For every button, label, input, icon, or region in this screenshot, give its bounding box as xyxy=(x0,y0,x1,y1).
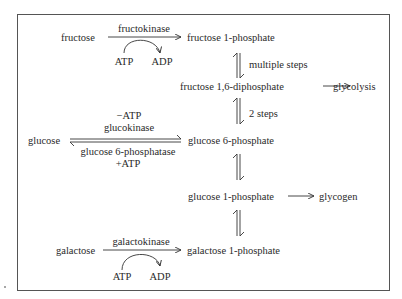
label-glucose-6-phosphatase: glucose 6-phosphatase xyxy=(81,146,176,158)
label-galacto-atp: ATP xyxy=(113,271,132,283)
node-glucose-6-phosphate: glucose 6-phosphate xyxy=(188,135,274,147)
label-glucokinase: glucokinase xyxy=(104,122,154,134)
label-fructo-atp: ATP xyxy=(115,56,134,68)
node-fructose: fructose xyxy=(61,32,95,44)
node-glucose-1-phosphate: glucose 1-phosphate xyxy=(188,191,274,203)
label-galacto-adp: ADP xyxy=(149,271,170,283)
label-2-steps: 2 steps xyxy=(249,108,278,120)
node-galactose-1-phosphate: galactose 1-phosphate xyxy=(187,245,280,257)
label-minus-atp: −ATP xyxy=(117,110,142,122)
label-galactokinase: galactokinase xyxy=(112,236,169,248)
node-glycolysis: glycolysis xyxy=(333,81,376,93)
label-fructo-adp: ADP xyxy=(151,56,172,68)
node-fructose-1-6-diphosphate: fructose 1,6-diphosphate xyxy=(180,81,284,93)
node-glucose: glucose xyxy=(28,135,60,147)
node-galactose: galactose xyxy=(56,245,95,257)
label-fructokinase: fructokinase xyxy=(118,23,170,35)
label-multiple-steps: multiple steps xyxy=(249,59,308,71)
galacto-atp-adp-curve xyxy=(122,254,160,270)
node-fructose-1-phosphate: fructose 1-phosphate xyxy=(187,32,275,44)
label-plus-atp: +ATP xyxy=(116,158,141,170)
node-glycogen: glycogen xyxy=(319,191,358,203)
fructo-atp-adp-curve xyxy=(124,40,160,53)
